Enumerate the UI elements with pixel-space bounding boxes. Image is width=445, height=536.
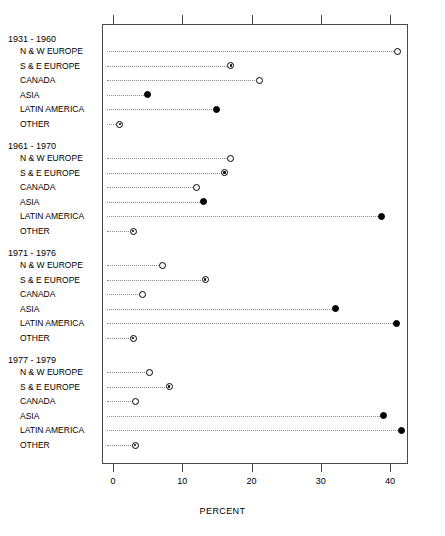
leader-line — [107, 372, 145, 374]
leader-line — [107, 323, 393, 325]
x-axis-tick-label: 20 — [237, 476, 267, 486]
x-axis-tick-label: 40 — [375, 476, 405, 486]
data-point-marker — [227, 155, 234, 162]
leader-line — [107, 202, 200, 204]
data-point-marker — [130, 228, 137, 235]
leader-line — [107, 430, 398, 432]
category-label-latin-america: LATIN AMERICA — [20, 425, 100, 435]
leader-line — [107, 51, 394, 53]
category-label-other: OTHER — [20, 440, 100, 450]
x-axis-title: PERCENT — [0, 506, 445, 516]
category-label-s-e-europe: S & E EUROPE — [20, 382, 100, 392]
leader-line — [107, 445, 131, 447]
x-axis-tick-top — [252, 15, 253, 24]
category-label-n-w-europe: N & W EUROPE — [20, 367, 100, 377]
leader-line — [107, 80, 255, 82]
leader-line — [107, 294, 138, 296]
data-point-marker — [256, 77, 263, 84]
category-label-asia: ASIA — [20, 411, 100, 421]
leader-line — [107, 338, 129, 340]
category-label-latin-america: LATIN AMERICA — [20, 104, 100, 114]
leader-line — [107, 387, 165, 389]
category-label-latin-america: LATIN AMERICA — [20, 211, 100, 221]
x-axis-tick-bottom — [321, 464, 322, 472]
data-point-marker — [132, 398, 139, 405]
category-label-canada: CANADA — [20, 396, 100, 406]
category-label-other: OTHER — [20, 226, 100, 236]
x-axis-tick-top — [182, 15, 183, 24]
leader-line — [107, 173, 220, 175]
leader-line — [107, 309, 332, 311]
x-axis-tick-bottom — [252, 464, 253, 472]
x-axis-tick-top — [321, 15, 322, 24]
category-label-s-e-europe: S & E EUROPE — [20, 275, 100, 285]
leader-line — [107, 109, 212, 111]
category-label-n-w-europe: N & W EUROPE — [20, 46, 100, 56]
category-label-s-e-europe: S & E EUROPE — [20, 61, 100, 71]
category-label-asia: ASIA — [20, 90, 100, 100]
leader-line — [107, 280, 201, 282]
x-axis-tick-label: 30 — [306, 476, 336, 486]
leader-line — [107, 187, 193, 189]
data-point-marker — [193, 184, 200, 191]
x-axis-tick-bottom — [182, 464, 183, 472]
category-label-asia: ASIA — [20, 197, 100, 207]
group-header-3: 1971 - 1976 — [8, 248, 100, 258]
data-point-marker — [146, 369, 153, 376]
category-label-canada: CANADA — [20, 289, 100, 299]
leader-line — [107, 66, 227, 68]
leader-line — [107, 95, 144, 97]
group-header-2: 1961 - 1970 — [8, 141, 100, 151]
leader-line — [107, 124, 116, 126]
leader-line — [107, 401, 131, 403]
x-axis-tick-label: 10 — [167, 476, 197, 486]
category-label-asia: ASIA — [20, 304, 100, 314]
category-label-other: OTHER — [20, 119, 100, 129]
category-label-canada: CANADA — [20, 182, 100, 192]
x-axis-tick-top — [113, 15, 114, 24]
leader-line — [107, 216, 378, 218]
group-header-1: 1931 - 1960 — [8, 34, 100, 44]
data-point-marker — [132, 442, 139, 449]
x-axis-tick-bottom — [390, 464, 391, 472]
category-label-other: OTHER — [20, 333, 100, 343]
leader-line — [107, 416, 380, 418]
data-point-marker — [202, 276, 209, 283]
category-label-latin-america: LATIN AMERICA — [20, 318, 100, 328]
data-point-marker — [394, 48, 401, 55]
category-label-n-w-europe: N & W EUROPE — [20, 260, 100, 270]
x-axis-tick-top — [390, 15, 391, 24]
data-point-marker — [130, 335, 137, 342]
data-point-marker — [159, 262, 166, 269]
category-label-s-e-europe: S & E EUROPE — [20, 168, 100, 178]
leader-line — [107, 265, 159, 267]
leader-line — [107, 158, 227, 160]
data-point-marker — [213, 106, 220, 113]
plot-frame — [102, 24, 408, 464]
data-point-marker — [139, 291, 146, 298]
x-axis-tick-bottom — [113, 464, 114, 472]
category-label-n-w-europe: N & W EUROPE — [20, 153, 100, 163]
category-label-canada: CANADA — [20, 75, 100, 85]
x-axis-tick-label: 0 — [98, 476, 128, 486]
group-header-4: 1977 - 1979 — [8, 355, 100, 365]
leader-line — [107, 231, 129, 233]
data-point-marker — [116, 121, 123, 128]
dot-plot-chart: 0102030401931 - 1960N & W EUROPES & E EU… — [0, 0, 445, 536]
data-point-marker — [166, 383, 173, 390]
